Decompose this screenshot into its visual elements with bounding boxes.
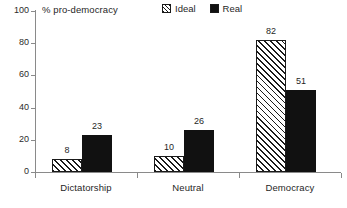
bar-value-label: 10: [154, 143, 184, 152]
y-axis-tick-label: 100: [0, 6, 29, 15]
bar-value-label: 23: [82, 122, 112, 131]
bar-neutral-real: [184, 130, 214, 172]
bar-value-label: 82: [256, 27, 286, 36]
x-axis-label-neutral: Neutral: [137, 182, 239, 193]
y-axis-tick-label: 20: [0, 135, 29, 144]
x-axis-label-dictatorship: Dictatorship: [35, 182, 137, 193]
x-axis-line: [35, 172, 341, 173]
y-axis-tick-label: 60: [0, 70, 29, 79]
x-axis-label-democracy: Democracy: [239, 182, 341, 193]
bar-neutral-ideal: [154, 156, 184, 172]
x-axis-tick: [239, 173, 240, 178]
bar-chart: % pro-democracy Ideal Real 020406080100 …: [0, 0, 347, 208]
bar-dictatorship-ideal: [52, 159, 82, 172]
x-axis-tick: [341, 173, 342, 178]
bar-value-label: 51: [286, 77, 316, 86]
y-axis-tick-label: 0: [0, 167, 29, 176]
x-axis-tick: [35, 173, 36, 178]
y-axis-tick-label: 80: [0, 38, 29, 47]
bar-dictatorship-real: [82, 135, 112, 172]
x-axis-tick: [137, 173, 138, 178]
y-axis-tick-label: 40: [0, 103, 29, 112]
bar-value-label: 8: [52, 146, 82, 155]
bar-democracy-real: [286, 90, 316, 172]
bar-democracy-ideal: [256, 40, 286, 172]
bar-value-label: 26: [184, 117, 214, 126]
